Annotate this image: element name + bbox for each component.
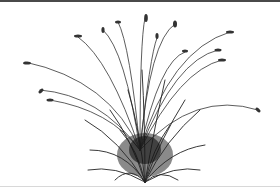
ground-line bbox=[0, 186, 280, 187]
grass-illustration bbox=[0, 0, 280, 196]
